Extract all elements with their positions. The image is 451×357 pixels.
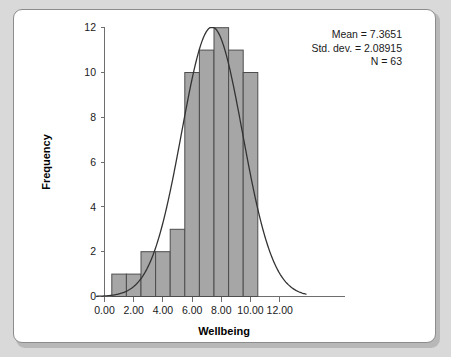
x-tick-label: 6.00: [182, 304, 203, 316]
histogram-bar: [112, 274, 127, 296]
histogram-bars: [112, 28, 258, 297]
histogram-bar: [243, 73, 258, 297]
y-tick-label: 8: [90, 111, 96, 123]
histogram-bar: [156, 252, 171, 297]
histogram-bar: [170, 229, 185, 296]
n-label: N = 63: [371, 55, 402, 67]
y-tick-label: 10: [84, 66, 96, 78]
histogram-bar: [141, 252, 156, 297]
stddev-label: Std. dev. = 2.08915: [311, 42, 402, 54]
y-tick-label: 0: [90, 290, 96, 302]
x-axis-ticks: 0.00 2.00 4.00 6.00 8.00 10.00 12.00: [94, 297, 293, 317]
x-tick-label: 12.00: [267, 304, 293, 316]
x-tick-label: 10.00: [237, 304, 263, 316]
stats-box: Mean = 7.3651 Std. dev. = 2.08915 N = 63: [311, 28, 402, 67]
histogram-bar: [199, 50, 214, 296]
y-tick-label: 2: [90, 245, 96, 257]
x-tick-label: 8.00: [211, 304, 232, 316]
histogram-bar: [126, 274, 141, 296]
x-tick-label: 4.00: [153, 304, 174, 316]
histogram-figure: 0 2 4 6 8 10 12 0.00 2.00: [0, 0, 451, 357]
mean-label: Mean = 7.3651: [332, 28, 403, 40]
histogram-bar: [214, 28, 229, 297]
histogram-plot: 0 2 4 6 8 10 12 0.00 2.00: [14, 10, 436, 343]
y-axis-ticks: 0 2 4 6 8 10 12: [84, 21, 104, 302]
x-tick-label: 0.00: [94, 304, 115, 316]
x-axis-title: Wellbeing: [198, 325, 250, 337]
y-axis-title: Frequency: [40, 133, 52, 190]
y-tick-label: 6: [90, 156, 96, 168]
chart-panel: 0 2 4 6 8 10 12 0.00 2.00: [13, 9, 436, 343]
y-tick-label: 4: [90, 201, 96, 213]
x-tick-label: 2.00: [123, 304, 144, 316]
histogram-bar: [229, 50, 244, 296]
y-tick-label: 12: [84, 21, 96, 33]
